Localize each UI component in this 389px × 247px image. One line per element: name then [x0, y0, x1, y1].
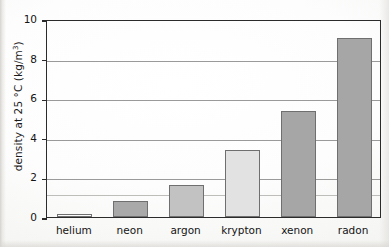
bar-neon	[113, 201, 148, 217]
gridline	[47, 100, 380, 101]
y-axis-label-prefix: density at 25 °C (kg/m	[12, 50, 24, 171]
bar-chart: density at 25 °C (kg/m3) 0246810heliumne…	[0, 0, 389, 247]
y-axis-tick-mark	[42, 100, 47, 101]
y-axis-tick-label: 0	[0, 211, 37, 223]
x-axis-label-radon: radon	[325, 224, 381, 236]
y-axis-tick-label: 10	[0, 13, 37, 25]
y-axis-label-exponent: 3	[12, 46, 20, 51]
plot-area	[46, 20, 381, 218]
y-axis-tick-mark	[42, 60, 47, 61]
y-axis-tick-label: 2	[0, 171, 37, 183]
bar-radon	[337, 38, 372, 217]
x-axis-label-neon: neon	[102, 224, 158, 236]
x-axis-label-argon: argon	[158, 224, 214, 236]
x-axis-label-helium: helium	[46, 224, 102, 236]
bar-argon	[169, 185, 204, 217]
bar-helium	[57, 214, 92, 217]
y-axis-label-suffix: )	[12, 41, 24, 45]
gridline	[47, 179, 380, 180]
scan-fold-line	[47, 195, 380, 196]
y-axis-tick-mark	[42, 218, 47, 219]
y-axis-tick-label: 6	[0, 92, 37, 104]
y-axis-tick-mark	[42, 179, 47, 180]
gridline	[47, 61, 380, 62]
gridline	[47, 140, 380, 141]
bar-krypton	[225, 150, 260, 217]
y-axis-tick-mark	[42, 139, 47, 140]
y-axis-tick-mark	[42, 20, 47, 21]
bar-xenon	[281, 111, 316, 217]
y-axis-tick-label: 4	[0, 132, 37, 144]
x-axis-label-xenon: xenon	[269, 224, 325, 236]
x-axis-label-krypton: krypton	[214, 224, 270, 236]
y-axis-tick-label: 8	[0, 53, 37, 65]
